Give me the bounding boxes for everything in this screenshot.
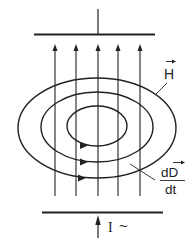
middle-loop: [41, 92, 153, 162]
magnetic-field-loops: [18, 78, 176, 178]
displacement-current-label: dD dt: [130, 161, 185, 198]
ac-symbol: ~: [119, 217, 128, 234]
current-label: I: [108, 220, 113, 235]
current-arrow-icon: [95, 215, 100, 225]
h-label: H: [164, 66, 174, 82]
loop-direction-arrows: [78, 142, 88, 182]
magnetic-field-label: H: [155, 60, 176, 96]
capacitor-diagram: H dD dt I ~: [0, 0, 196, 249]
dt-label: dt: [165, 182, 177, 197]
dd-label: dD: [161, 165, 179, 180]
h-leader-line: [155, 83, 167, 95]
